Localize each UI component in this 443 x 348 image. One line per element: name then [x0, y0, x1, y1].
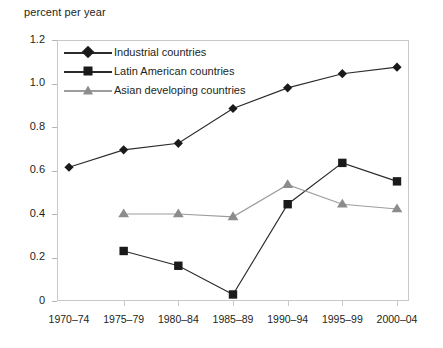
legend-label-latin-american: Latin American countries [114, 62, 234, 81]
diamond-data-point [119, 145, 128, 154]
square-data-point [119, 247, 127, 255]
square-marker-icon [84, 67, 93, 76]
square-data-point [283, 200, 291, 208]
series-line [124, 185, 397, 217]
legend-sample-asian-developing [62, 81, 114, 100]
chart-legend: Industrial countries Latin American coun… [62, 43, 292, 100]
diamond-data-point [174, 139, 183, 148]
series-latin-american-countries [119, 159, 401, 299]
series-line [124, 163, 397, 295]
legend-sample-industrial [62, 43, 114, 62]
triangle-marker-icon [83, 86, 93, 95]
triangle-data-point [282, 179, 293, 188]
diamond-marker-icon [82, 46, 95, 59]
legend-item-asian-developing: Asian developing countries [62, 81, 292, 100]
triangle-data-point [228, 211, 239, 220]
square-data-point [393, 177, 401, 185]
square-data-point [338, 159, 346, 167]
diamond-data-point [64, 163, 73, 172]
legend-label-industrial: Industrial countries [114, 43, 206, 62]
triangle-data-point [392, 204, 403, 213]
legend-sample-latin-american [62, 62, 114, 81]
diamond-data-point [228, 104, 237, 113]
diamond-data-point [338, 69, 347, 78]
diamond-data-point [392, 63, 401, 72]
series-asian-developing-countries [118, 179, 402, 220]
triangle-data-point [173, 209, 184, 218]
chart-container: percent per year 00.20.40.60.81.01.2 197… [0, 0, 443, 348]
legend-item-latin-american: Latin American countries [62, 62, 292, 81]
square-data-point [174, 262, 182, 270]
square-data-point [229, 290, 237, 298]
legend-label-asian-developing: Asian developing countries [114, 81, 245, 100]
legend-item-industrial: Industrial countries [62, 43, 292, 62]
triangle-data-point [118, 209, 129, 218]
